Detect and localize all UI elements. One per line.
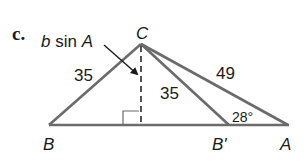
part-label: c. — [12, 23, 25, 44]
altitude-label-A: A — [81, 32, 93, 51]
vertex-label-A: A — [279, 135, 291, 154]
vertex-label-B: B — [43, 135, 54, 154]
altitude-label-b: b — [41, 32, 50, 51]
triangle-diagram: c. b sin A C B B' A 35 35 49 28° — [0, 0, 308, 164]
vertex-label-C: C — [136, 24, 149, 43]
right-angle-icon — [123, 111, 139, 125]
angle-label-A: 28° — [232, 109, 253, 125]
side-label-CB-prime: 35 — [160, 84, 179, 103]
side-label-CB: 35 — [74, 66, 93, 85]
altitude-label-sin: sin — [50, 32, 81, 51]
altitude-arrow-icon — [104, 45, 137, 74]
vertex-label-B-prime: B' — [212, 135, 227, 154]
side-CB — [49, 44, 141, 125]
altitude-label: b sin A — [41, 32, 93, 51]
side-label-CA: 49 — [216, 64, 235, 83]
